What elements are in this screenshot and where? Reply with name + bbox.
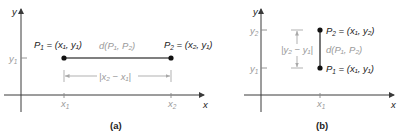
y1-tick-label: y1 (249, 63, 259, 75)
p1-label: P1 = (x₁, y₁) (34, 39, 82, 51)
distance-label: d(P₁, P₂) (326, 44, 362, 55)
p2-label: P2 = (x₂, y₁) (164, 39, 213, 51)
horizontal-dimension: |x₂ − x₁| (64, 70, 171, 82)
caption-b: (b) (316, 120, 328, 131)
distance-label: d(P₁, P₂) (99, 40, 135, 51)
x2-tick-label: x2 (167, 98, 177, 110)
y-axis-label: y (252, 6, 259, 17)
p2-label: P2 = (x₁, y₂) (326, 25, 375, 37)
x1-tick-label: x1 (60, 98, 70, 110)
x-axis-label: x (202, 99, 209, 110)
panel-b: y x y2 y1 x1 P2 = (x₁, y₂) P1 = (x₁, y₁)… (244, 6, 397, 131)
panel-a: y x y1 x1 x2 P1 = (x₁, y₁) P2 = (x₂, y₁)… (4, 6, 213, 131)
point-p2 (168, 55, 173, 60)
point-p1 (61, 55, 66, 60)
caption-a: (a) (110, 120, 122, 131)
distance-formula-figure: y x y1 x1 x2 P1 = (x₁, y₁) P2 = (x₂, y₁)… (0, 0, 400, 139)
y2-tick-label: y2 (249, 25, 259, 37)
point-p2 (317, 27, 322, 32)
x-axis-label: x (390, 99, 397, 110)
dimension-label: |x₂ − x₁| (99, 71, 131, 82)
dimension-label: |y₂ − y₁| (281, 44, 313, 55)
point-p1 (317, 65, 322, 70)
y-axis-label: y (11, 6, 18, 17)
p1-label: P1 = (x₁, y₁) (326, 63, 374, 75)
x1-tick-label: x1 (316, 98, 326, 110)
vertical-dimension: |y₂ − y₁| (281, 30, 313, 68)
y1-tick-label: y1 (8, 53, 18, 65)
